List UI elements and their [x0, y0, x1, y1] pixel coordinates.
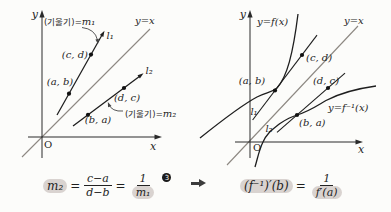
implies-arrow-icon	[191, 179, 207, 188]
identity-line-label: y=x	[343, 15, 364, 26]
right-graph: y x O y=x y=f(x) y=f⁻¹(x) l₁ l₂ (a, b) (…	[195, 0, 391, 168]
curve-f-inverse-label: y=f⁻¹(x)	[327, 102, 369, 113]
line-l1	[57, 35, 102, 115]
point-dot-ab	[273, 88, 277, 92]
slope1-pointer	[82, 28, 98, 41]
x-axis-arrowhead	[155, 134, 163, 139]
point-dot-cd	[300, 53, 304, 57]
numerator: 1	[320, 172, 333, 186]
line-l2-label: l₂	[146, 65, 153, 76]
point-dot-dc	[122, 86, 126, 90]
f-prime-term: f′(a)	[312, 186, 342, 199]
textbook-figure: y x O y=x l₁ l₂ (기울기)=m₁ (기울기)=m₂ (a, b)…	[0, 0, 391, 212]
origin-label: O	[253, 142, 261, 153]
numerator: 1	[137, 172, 150, 186]
slope1-label: (기울기)=m₁	[44, 16, 95, 27]
y-axis-label: y	[31, 8, 39, 21]
equals-sign: =	[296, 179, 306, 193]
tangent-l1-label: l₁	[250, 106, 257, 117]
x-axis-label: x	[358, 143, 365, 156]
equals-sign: =	[116, 179, 126, 193]
reciprocal-fraction: 1 f′(a)	[309, 172, 345, 199]
line-l1-arrowhead	[100, 31, 105, 37]
slope-formula: m₂ = c−a d−b = 1 m₁ 3	[43, 172, 171, 199]
tangent-l2-label: l₂	[265, 123, 272, 134]
point-dot-cd	[89, 53, 93, 57]
slope-fraction: c−a d−b	[83, 172, 112, 199]
inverse-derivative-term: (f⁻¹)′(b)	[240, 179, 293, 193]
point-label-cd: (c, d)	[306, 52, 332, 63]
point-label-ab: (a, b)	[239, 75, 266, 86]
note-marker-icon: 3	[162, 173, 171, 182]
denominator: d−b	[83, 186, 112, 199]
inverse-derivative-formula: (f⁻¹)′(b) = 1 f′(a)	[240, 172, 345, 199]
left-graph: y x O y=x l₁ l₂ (기울기)=m₁ (기울기)=m₂ (a, b)…	[0, 0, 195, 168]
point-label-dc: (d, c)	[313, 75, 339, 86]
point-label-dc: (d, c)	[114, 92, 140, 103]
slope2-label: (기울기)=m₂	[125, 108, 176, 119]
point-label-cd: (c, d)	[62, 49, 88, 60]
y-axis-arrowhead	[247, 10, 252, 18]
y-axis-label: y	[239, 8, 247, 21]
slope2-pointer-arrowhead	[108, 102, 112, 107]
denominator: m₁	[129, 186, 158, 199]
identity-line-label: y=x	[134, 15, 155, 26]
point-label-ab: (a, b)	[47, 76, 74, 87]
line-l1-label: l₁	[107, 30, 114, 41]
point-dot-ab	[67, 92, 71, 96]
m1-term: m₁	[132, 186, 155, 199]
point-label-ba: (b, a)	[299, 117, 326, 128]
arrow-head	[199, 179, 206, 187]
reciprocal-fraction: 1 m₁	[129, 172, 158, 199]
origin-label: O	[44, 139, 52, 150]
point-label-ba: (b, a)	[85, 114, 112, 125]
curve-f-label: y=f(x)	[256, 16, 288, 27]
point-dot-dc	[326, 86, 330, 90]
numerator: c−a	[84, 172, 112, 186]
equals-sign: =	[70, 179, 80, 193]
x-axis-label: x	[150, 140, 157, 153]
m2-term: m₂	[43, 179, 67, 193]
denominator: f′(a)	[309, 186, 345, 199]
